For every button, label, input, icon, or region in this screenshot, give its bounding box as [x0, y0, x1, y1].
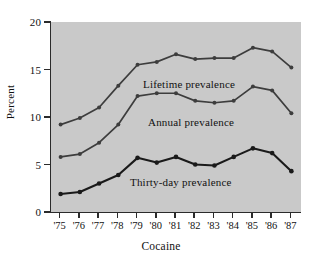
- x-tick-label: '80: [150, 220, 162, 231]
- data-point-marker: [59, 155, 63, 159]
- data-point-marker: [154, 160, 159, 165]
- x-tick-label: '84: [226, 220, 238, 231]
- y-tick-label: 10: [30, 112, 41, 123]
- data-point-marker: [193, 162, 198, 167]
- data-point-marker: [251, 146, 256, 151]
- data-point-marker: [136, 94, 140, 98]
- data-point-marker: [289, 169, 294, 174]
- data-point-marker: [251, 85, 255, 89]
- data-point-marker: [78, 190, 83, 195]
- data-point-marker: [251, 46, 255, 50]
- cocaine-prevalence-chart: 05101520 Percent '75'76'77'78'79'80'81'8…: [0, 0, 322, 262]
- y-axis-title: Percent: [4, 70, 16, 134]
- x-tick-label: '82: [188, 220, 200, 231]
- data-point-marker: [289, 66, 293, 70]
- data-point-marker: [97, 181, 102, 186]
- data-point-marker: [174, 155, 179, 160]
- data-point-marker: [232, 99, 236, 103]
- data-point-marker: [231, 155, 236, 160]
- x-tick-label: '75: [53, 220, 65, 231]
- data-point-marker: [97, 141, 101, 145]
- x-tick-label: '85: [246, 220, 258, 231]
- data-point-marker: [116, 173, 121, 178]
- data-point-marker: [78, 116, 82, 120]
- x-tick-label: '79: [130, 220, 142, 231]
- x-axis-title: Cocaine: [0, 240, 322, 252]
- data-point-marker: [136, 63, 140, 67]
- x-tick-label: '83: [207, 220, 219, 231]
- y-axis: 05101520 Percent: [0, 0, 50, 262]
- data-point-marker: [174, 91, 178, 95]
- data-point-marker: [135, 156, 140, 161]
- x-tick-label: '86: [265, 220, 277, 231]
- series-label-annual: Annual prevalence: [148, 116, 234, 128]
- data-point-marker: [116, 84, 120, 88]
- data-point-marker: [193, 99, 197, 103]
- x-tick-label: '78: [111, 220, 123, 231]
- data-point-marker: [59, 123, 63, 127]
- data-point-marker: [212, 101, 216, 105]
- y-tick-label: 0: [35, 207, 41, 218]
- data-point-marker: [289, 111, 293, 115]
- data-point-marker: [155, 60, 159, 64]
- data-point-marker: [212, 163, 217, 168]
- y-tick-label: 15: [30, 64, 41, 75]
- data-point-marker: [174, 52, 178, 56]
- data-point-marker: [97, 106, 101, 110]
- data-point-marker: [116, 123, 120, 127]
- data-point-marker: [155, 91, 159, 95]
- data-point-marker: [58, 192, 63, 197]
- series-label-thirty: Thirty-day prevalence: [130, 176, 232, 188]
- y-tick-label: 20: [30, 17, 41, 28]
- x-tick-label: '81: [169, 220, 181, 231]
- data-point-marker: [270, 49, 274, 53]
- series-label-lifetime: Lifetime prevalence: [143, 78, 235, 90]
- x-tick-label: '77: [92, 220, 104, 231]
- data-point-marker: [193, 57, 197, 61]
- x-tick-label: '76: [73, 220, 85, 231]
- x-tick-label: '87: [284, 220, 296, 231]
- data-point-marker: [270, 88, 274, 92]
- data-point-marker: [270, 151, 275, 156]
- data-point-marker: [232, 56, 236, 60]
- data-point-marker: [212, 56, 216, 60]
- series-3: [58, 146, 293, 196]
- data-point-marker: [78, 152, 82, 156]
- y-tick-label: 5: [35, 159, 41, 170]
